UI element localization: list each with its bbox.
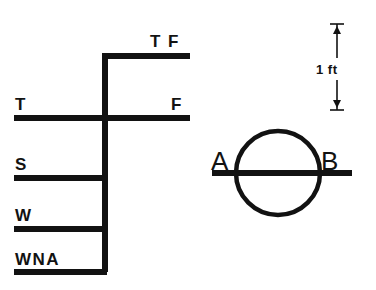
disc-label-b: B (321, 146, 338, 176)
scale-bar-group: 1 ft (316, 24, 344, 110)
plimsoll-disc-group: A B (211, 131, 352, 215)
scale-arrowhead-down (333, 100, 341, 108)
mark-s-label: S (15, 155, 28, 174)
mark-w-label: W (15, 206, 33, 225)
mark-t-label: T (15, 95, 27, 114)
load-line-marks-group: T F T F S W (14, 32, 190, 272)
diagram-canvas: T F T F S W (0, 0, 376, 290)
mark-tf: T F (102, 32, 190, 56)
mark-w: W (14, 206, 107, 229)
mark-wna: WNA (14, 250, 107, 272)
mark-wna-label: WNA (15, 250, 60, 269)
mark-tf-label: T F (150, 32, 180, 51)
scale-bar-label: 1 ft (316, 62, 338, 77)
mark-t: T (14, 95, 108, 118)
disc-label-a: A (211, 146, 229, 176)
mark-f: F (104, 95, 190, 118)
mark-s: S (14, 155, 107, 178)
scale-arrowhead-up (333, 26, 341, 34)
load-line-diagram: T F T F S W (0, 0, 376, 290)
mark-f-label: F (171, 95, 183, 114)
